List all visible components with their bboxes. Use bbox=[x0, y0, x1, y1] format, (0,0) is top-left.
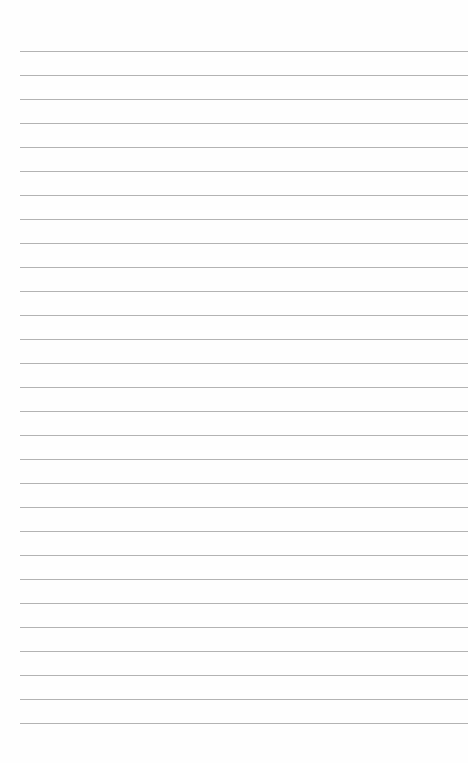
ruled-line bbox=[20, 75, 468, 76]
lined-paper-page bbox=[0, 0, 468, 763]
ruled-line bbox=[20, 291, 468, 292]
ruled-line bbox=[20, 315, 468, 316]
ruled-line bbox=[20, 123, 468, 124]
ruled-line bbox=[20, 195, 468, 196]
ruled-line bbox=[20, 435, 468, 436]
ruled-line bbox=[20, 603, 468, 604]
ruled-line bbox=[20, 627, 468, 628]
ruled-line bbox=[20, 507, 468, 508]
ruled-line bbox=[20, 531, 468, 532]
ruled-line bbox=[20, 411, 468, 412]
ruled-line bbox=[20, 699, 468, 700]
ruled-line bbox=[20, 339, 468, 340]
ruled-line bbox=[20, 99, 468, 100]
ruled-line bbox=[20, 171, 468, 172]
ruled-line bbox=[20, 387, 468, 388]
ruled-line bbox=[20, 51, 468, 52]
ruled-line bbox=[20, 267, 468, 268]
ruled-line bbox=[20, 555, 468, 556]
ruled-line bbox=[20, 243, 468, 244]
ruled-line bbox=[20, 675, 468, 676]
ruled-line bbox=[20, 219, 468, 220]
ruled-line bbox=[20, 459, 468, 460]
ruled-line bbox=[20, 579, 468, 580]
ruled-line bbox=[20, 483, 468, 484]
ruled-line bbox=[20, 363, 468, 364]
ruled-line bbox=[20, 147, 468, 148]
ruled-line bbox=[20, 651, 468, 652]
ruled-line bbox=[20, 723, 468, 724]
